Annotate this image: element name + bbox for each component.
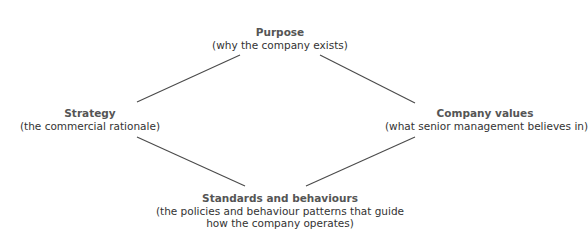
node-purpose-subtitle: (why the company exists) <box>180 39 380 52</box>
edge-standards-values <box>306 137 415 186</box>
node-strategy-subtitle: (the commercial rationale) <box>0 120 180 133</box>
node-company-values: Company values (what senior management b… <box>385 107 585 132</box>
edge-strategy-purpose <box>137 55 240 102</box>
node-standards-title: Standards and behaviours <box>150 192 410 205</box>
node-purpose-title: Purpose <box>180 26 380 39</box>
node-purpose: Purpose (why the company exists) <box>180 26 380 51</box>
node-strategy: Strategy (the commercial rationale) <box>0 107 180 132</box>
edge-strategy-standards <box>137 137 245 186</box>
node-standards-subtitle-line2: how the company operates) <box>150 217 410 230</box>
edge-purpose-values <box>320 55 415 103</box>
node-standards-subtitle-line1: (the policies and behaviour patterns tha… <box>150 205 410 218</box>
node-strategy-title: Strategy <box>0 107 180 120</box>
node-company-values-subtitle: (what senior management believes in) <box>385 120 585 133</box>
node-company-values-title: Company values <box>385 107 585 120</box>
node-standards: Standards and behaviours (the policies a… <box>150 192 410 230</box>
